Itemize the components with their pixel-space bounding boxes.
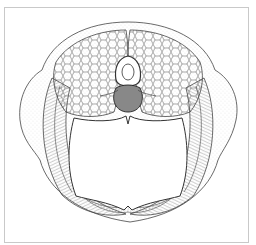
- figure-caption: [14, 238, 244, 245]
- body-cavity: [69, 116, 187, 210]
- cross-section-illustration: [0, 0, 256, 245]
